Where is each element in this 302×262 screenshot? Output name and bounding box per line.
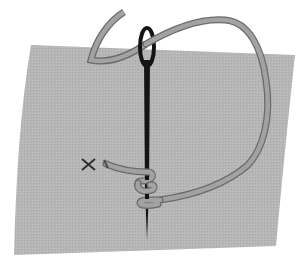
fabric-swatch bbox=[14, 45, 295, 255]
illustration bbox=[0, 0, 302, 262]
french-knot-diagram bbox=[0, 0, 302, 262]
